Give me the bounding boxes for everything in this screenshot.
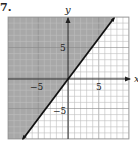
x-tick-label-pos5: 5 bbox=[96, 82, 102, 92]
y-axis-label: y bbox=[64, 4, 71, 15]
inequality-graph: y x −5 5 5 −5 bbox=[0, 0, 138, 142]
y-tick-label-pos5: 5 bbox=[60, 43, 66, 53]
x-tick-label-neg5: −5 bbox=[30, 82, 44, 92]
y-tick-label-neg5: −5 bbox=[53, 106, 67, 116]
x-axis-label: x bbox=[134, 73, 138, 84]
